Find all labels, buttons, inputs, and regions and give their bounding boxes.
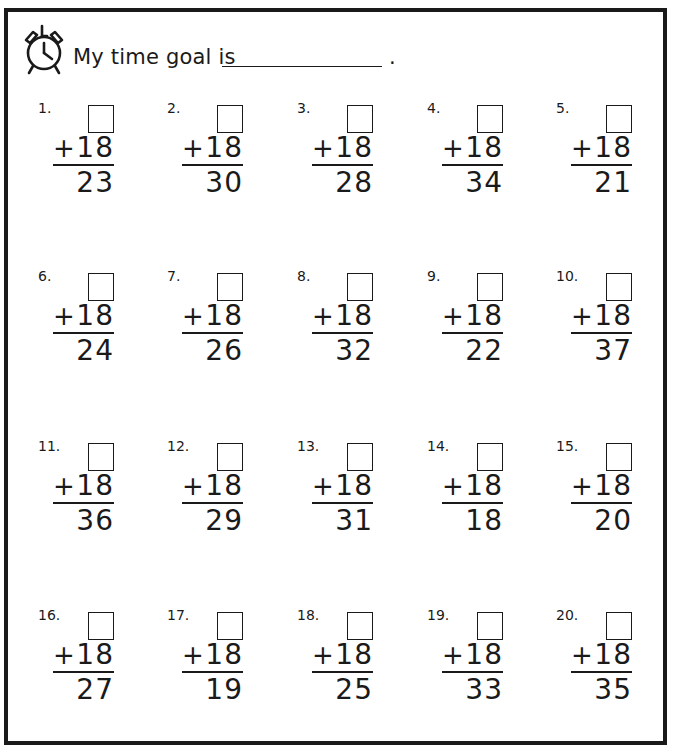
plus-operator: + (571, 471, 593, 501)
answer-box[interactable] (347, 443, 373, 471)
problem-number: 18. (297, 607, 319, 623)
sum: 34 (465, 167, 503, 199)
sum: 37 (594, 335, 632, 367)
answer-box[interactable] (477, 443, 503, 471)
problem-number: 6. (38, 268, 51, 284)
sum: 18 (465, 505, 503, 537)
sum: 19 (205, 674, 243, 706)
problem-number: 8. (297, 268, 310, 284)
answer-box[interactable] (217, 443, 243, 471)
answer-box[interactable] (606, 105, 632, 133)
plus-operator: + (571, 133, 593, 163)
answer-box[interactable] (606, 443, 632, 471)
addend: 18 (76, 133, 114, 163)
plus-operator: + (312, 471, 334, 501)
plus-operator: + (53, 640, 75, 670)
problem-number: 10. (556, 268, 578, 284)
problem-6: 6.+1824 (38, 268, 148, 378)
answer-box[interactable] (477, 105, 503, 133)
problem-8: 8.+1832 (297, 268, 407, 378)
plus-operator: + (182, 640, 204, 670)
problem-number: 3. (297, 100, 310, 116)
answer-box[interactable] (347, 105, 373, 133)
plus-operator: + (442, 133, 464, 163)
plus-operator: + (182, 471, 204, 501)
plus-operator: + (442, 471, 464, 501)
problem-number: 16. (38, 607, 60, 623)
plus-operator: + (312, 301, 334, 331)
alarm-clock-icon (20, 22, 68, 76)
sum: 33 (465, 674, 503, 706)
problem-18: 18.+1825 (297, 607, 407, 717)
addend: 18 (335, 133, 373, 163)
problem-number: 13. (297, 438, 319, 454)
plus-operator: + (571, 301, 593, 331)
problem-number: 7. (167, 268, 180, 284)
problem-number: 1. (38, 100, 51, 116)
problem-number: 9. (427, 268, 440, 284)
problem-17: 17.+1819 (167, 607, 277, 717)
addend: 18 (594, 133, 632, 163)
time-goal-label: My time goal is (73, 45, 236, 69)
addend: 18 (465, 133, 503, 163)
answer-box[interactable] (88, 612, 114, 640)
problem-number: 11. (38, 438, 60, 454)
sum: 20 (594, 505, 632, 537)
problem-19: 19.+1833 (427, 607, 537, 717)
addend: 18 (594, 640, 632, 670)
problem-5: 5.+1821 (556, 100, 666, 210)
answer-box[interactable] (88, 273, 114, 301)
problem-4: 4.+1834 (427, 100, 537, 210)
problem-16: 16.+1827 (38, 607, 148, 717)
answer-box[interactable] (347, 273, 373, 301)
time-goal-input[interactable] (222, 66, 382, 67)
addend: 18 (465, 640, 503, 670)
problem-11: 11.+1836 (38, 438, 148, 548)
addend: 18 (594, 301, 632, 331)
addend: 18 (465, 471, 503, 501)
plus-operator: + (53, 301, 75, 331)
problem-20: 20.+1835 (556, 607, 666, 717)
answer-box[interactable] (477, 273, 503, 301)
addend: 18 (335, 301, 373, 331)
addend: 18 (335, 640, 373, 670)
sum: 21 (594, 167, 632, 199)
sum: 22 (465, 335, 503, 367)
sum: 23 (76, 167, 114, 199)
answer-box[interactable] (477, 612, 503, 640)
problem-12: 12.+1829 (167, 438, 277, 548)
sum: 31 (335, 505, 373, 537)
problem-13: 13.+1831 (297, 438, 407, 548)
addend: 18 (76, 640, 114, 670)
sum: 25 (335, 674, 373, 706)
plus-operator: + (312, 133, 334, 163)
answer-box[interactable] (217, 105, 243, 133)
problem-number: 15. (556, 438, 578, 454)
answer-box[interactable] (217, 273, 243, 301)
answer-box[interactable] (606, 612, 632, 640)
plus-operator: + (53, 133, 75, 163)
answer-box[interactable] (217, 612, 243, 640)
plus-operator: + (182, 133, 204, 163)
answer-box[interactable] (347, 612, 373, 640)
answer-box[interactable] (88, 105, 114, 133)
sum: 28 (335, 167, 373, 199)
problem-number: 4. (427, 100, 440, 116)
addend: 18 (76, 301, 114, 331)
sum: 26 (205, 335, 243, 367)
addend: 18 (76, 471, 114, 501)
problem-3: 3.+1828 (297, 100, 407, 210)
problem-10: 10.+1837 (556, 268, 666, 378)
addend: 18 (205, 133, 243, 163)
plus-operator: + (53, 471, 75, 501)
plus-operator: + (312, 640, 334, 670)
addend: 18 (205, 301, 243, 331)
problem-number: 12. (167, 438, 189, 454)
time-goal-period: . (389, 45, 396, 69)
sum: 32 (335, 335, 373, 367)
sum: 24 (76, 335, 114, 367)
problem-1: 1.+1823 (38, 100, 148, 210)
answer-box[interactable] (88, 443, 114, 471)
plus-operator: + (442, 301, 464, 331)
answer-box[interactable] (606, 273, 632, 301)
